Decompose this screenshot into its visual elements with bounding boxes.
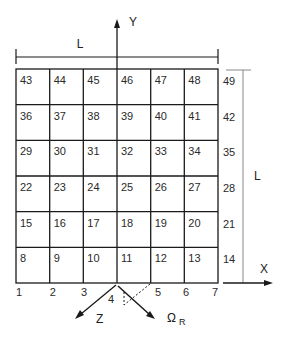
right-column-labels: 49 42 35 28 21 14 [223, 75, 235, 265]
node-label: 4 [108, 293, 114, 305]
x-arrowhead-icon [264, 280, 273, 286]
cell-label: 39 [121, 110, 133, 122]
cell-label: 32 [121, 145, 133, 157]
cell-label: 47 [155, 74, 167, 86]
z-axis-label: Z [96, 312, 103, 326]
top-dimension-label: L [77, 37, 84, 51]
cell-label: 12 [155, 252, 167, 264]
cell-label: 29 [20, 145, 32, 157]
cell-label: 34 [188, 145, 200, 157]
cell-label: 15 [20, 217, 32, 229]
cell-label: 24 [87, 181, 99, 193]
y-arrowhead-icon [114, 19, 120, 28]
cell-label: 36 [20, 110, 32, 122]
z-arrowhead-icon [75, 310, 84, 319]
cell-label: 44 [54, 74, 66, 86]
cell-label: 31 [87, 145, 99, 157]
node-label: 3 [81, 286, 87, 298]
cell-label: 46 [121, 74, 133, 86]
bottom-node-labels: 1 2 3 4 5 6 7 [16, 286, 218, 305]
cell-label: 20 [188, 217, 200, 229]
node-label: 5 [155, 286, 161, 298]
grid [16, 69, 218, 283]
cell-label: 16 [54, 217, 66, 229]
cell-label: 43 [20, 74, 32, 86]
cell-label: 9 [54, 252, 60, 264]
cell-label: 37 [54, 110, 66, 122]
cell-label: 27 [188, 181, 200, 193]
cell-label: 22 [20, 181, 32, 193]
omega-subscript: R [179, 317, 186, 327]
cell-label: 11 [121, 252, 132, 264]
cell-label: 40 [155, 110, 167, 122]
node-label: 7 [212, 286, 218, 298]
node-label: 14 [223, 253, 235, 265]
cell-label: 18 [121, 217, 133, 229]
cell-label: 33 [155, 145, 167, 157]
cell-label: 23 [54, 181, 66, 193]
node-label: 35 [223, 146, 235, 158]
grid-diagram: L Y L 43 44 45 46 47 48 36 37 38 39 [0, 0, 286, 340]
cell-labels: 43 44 45 46 47 48 36 37 38 39 40 41 29 3… [20, 74, 201, 264]
node-label: 6 [183, 286, 189, 298]
cell-label: 10 [87, 252, 99, 264]
y-axis-label: Y [129, 15, 137, 29]
omega-r-vector: Ω R [118, 284, 186, 327]
node-label: 42 [223, 111, 235, 123]
cell-label: 13 [188, 252, 200, 264]
y-axis: Y [114, 15, 137, 69]
node-label: 21 [223, 218, 235, 230]
node-label: 49 [223, 75, 235, 87]
cell-label: 26 [155, 181, 167, 193]
cell-label: 17 [87, 217, 99, 229]
cell-label: 41 [188, 110, 200, 122]
right-dimension-label: L [254, 169, 261, 183]
cell-label: 48 [188, 74, 200, 86]
x-axis: X [223, 262, 273, 286]
cell-label: 30 [54, 145, 66, 157]
cell-label: 8 [20, 252, 26, 264]
cell-label: 38 [87, 110, 99, 122]
cell-label: 19 [155, 217, 167, 229]
cell-label: 45 [87, 74, 99, 86]
omega-label: Ω [167, 311, 176, 325]
right-dimension: L [226, 70, 261, 283]
x-axis-label: X [260, 262, 268, 276]
node-label: 1 [16, 286, 22, 298]
node-label: 28 [223, 182, 235, 194]
node-label: 2 [50, 286, 56, 298]
cell-label: 25 [121, 181, 133, 193]
